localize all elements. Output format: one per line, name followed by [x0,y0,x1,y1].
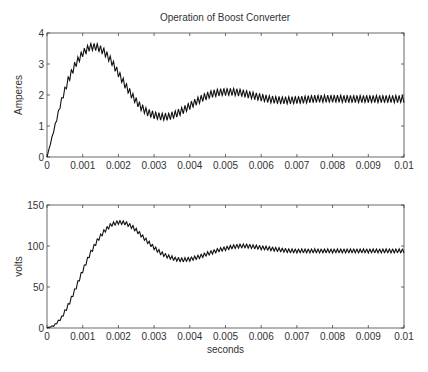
y-tick-label: 4 [38,28,44,39]
x-tick-label: 0.006 [249,331,274,342]
x-tick-label: 0.004 [177,160,202,171]
series-line [47,43,404,157]
x-tick-label: 0.01 [394,160,414,171]
x-tick-label: 0.002 [106,160,131,171]
x-tick-label: 0.009 [356,331,381,342]
boost-converter-figure: 00.0010.0020.0030.0040.0050.0060.0070.00… [0,0,428,372]
x-tick-label: 0.001 [70,160,95,171]
series-line [47,221,404,328]
x-tick-label: 0.005 [213,331,238,342]
axes-frame [47,205,404,328]
x-tick-label: 0.006 [249,160,274,171]
x-tick-label: 0.003 [142,331,167,342]
x-tick-label: 0 [44,160,50,171]
y-tick-label: 150 [27,200,44,211]
y-tick-label: 1 [38,121,44,132]
x-tick-label: 0.004 [177,331,202,342]
y-tick-label: 3 [38,59,44,70]
y-tick-label: 50 [33,282,45,293]
y-tick-label: 0 [38,152,44,163]
x-tick-label: 0 [44,331,50,342]
x-tick-label: 0.007 [284,160,309,171]
y-tick-label: 0 [38,323,44,334]
x-tick-label: 0.007 [284,331,309,342]
x-tick-label: 0.003 [142,160,167,171]
x-tick-label: 0.002 [106,331,131,342]
x-tick-label: 0.008 [320,331,345,342]
y-tick-label: 2 [38,90,44,101]
x-tick-label: 0.001 [70,331,95,342]
current-axes: 00.0010.0020.0030.0040.0050.0060.0070.00… [13,28,414,171]
y-axis-label: volts [13,256,24,277]
x-tick-label: 0.01 [394,331,414,342]
voltage-axes: 00.0010.0020.0030.0040.0050.0060.0070.00… [13,200,414,355]
y-axis-label: Amperes [13,75,24,115]
x-tick-label: 0.009 [356,160,381,171]
x-axis-label: seconds [207,344,244,355]
y-tick-label: 100 [27,241,44,252]
x-tick-label: 0.005 [213,160,238,171]
x-tick-label: 0.008 [320,160,345,171]
